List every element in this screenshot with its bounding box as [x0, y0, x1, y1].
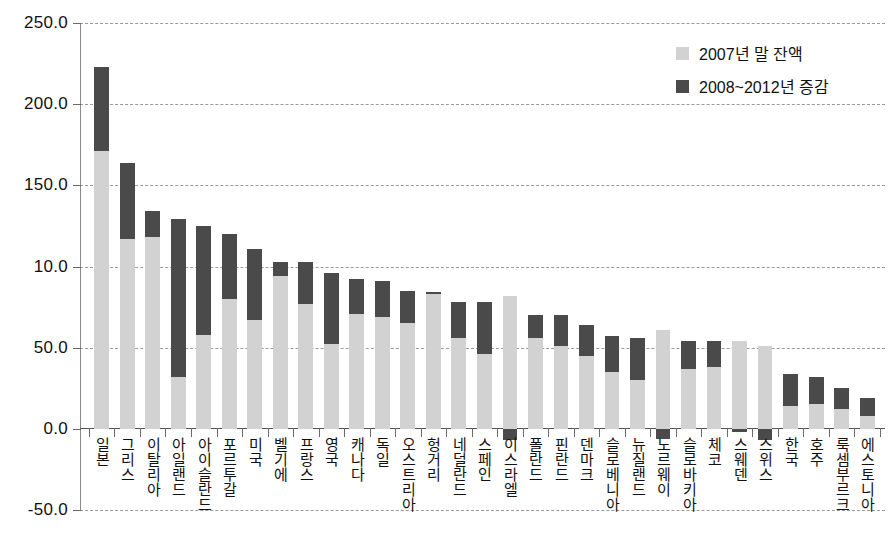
x-axis-category-label: 핀란드 — [553, 437, 568, 482]
x-axis-category-label: 헝거리 — [426, 437, 441, 482]
x-axis-category-label: 에스토니아 — [860, 437, 875, 512]
x-axis-category-label: 캐나다 — [349, 437, 364, 482]
x-tick-mark — [880, 428, 881, 437]
bar-segment-base — [681, 369, 696, 429]
bar-segment-delta — [834, 388, 849, 409]
x-axis-category-label: 벨기에 — [273, 437, 288, 482]
bar-segment-delta — [247, 249, 262, 320]
bar-segment-base — [324, 344, 339, 428]
y-tick-mark — [73, 23, 81, 24]
x-axis-category-label: 영국 — [324, 437, 339, 467]
x-axis-category-label: 그리스 — [120, 437, 135, 482]
x-axis-category-label: 호주 — [809, 437, 824, 467]
bar-segment-base — [349, 314, 364, 429]
x-axis-category-label: 폴란드 — [528, 437, 543, 482]
bar-segment-delta — [707, 341, 722, 367]
bar-segment-delta — [94, 67, 109, 151]
x-tick-mark — [242, 428, 243, 437]
x-axis-category-label: 체코 — [707, 437, 722, 467]
x-tick-mark — [854, 428, 855, 437]
x-tick-mark — [701, 428, 702, 437]
x-tick-mark — [165, 428, 166, 437]
x-tick-mark — [140, 428, 141, 437]
x-tick-mark — [191, 428, 192, 437]
legend-item[interactable]: 2008~2012년 증감 — [676, 74, 829, 98]
x-axis-category-label: 노르웨이 — [656, 437, 671, 497]
y-axis-tick-label: 150.0 — [24, 175, 68, 195]
bar-segment-base — [273, 276, 288, 429]
bar-segment-base — [298, 304, 313, 429]
bar-segment-delta — [324, 273, 339, 344]
legend-label: 2008~2012년 증감 — [699, 74, 829, 98]
x-axis-category-label: 독일 — [375, 437, 390, 467]
bar-segment-base — [630, 380, 645, 429]
x-tick-mark — [421, 428, 422, 437]
x-tick-mark — [752, 428, 753, 437]
bar-segment-base — [94, 151, 109, 429]
bar-segment-base — [656, 330, 671, 429]
bar-segment-base — [605, 372, 620, 429]
x-tick-mark — [625, 428, 626, 437]
x-axis-category-label: 오스트리아 — [400, 437, 415, 512]
bar-segment-base — [451, 338, 466, 429]
bar-segment-delta — [554, 315, 569, 346]
bar-segment-base — [120, 239, 135, 429]
bar-segment-base — [477, 354, 492, 429]
bar-segment-base — [758, 346, 773, 429]
x-tick-mark — [370, 428, 371, 437]
bar-segment-base — [860, 416, 875, 429]
bar-segment-delta — [426, 292, 441, 294]
legend-swatch-delta — [676, 80, 689, 93]
bar-segment-base — [834, 409, 849, 428]
bar-segment-base — [400, 323, 415, 429]
bar-segment-delta — [860, 398, 875, 416]
bar-segment-base — [196, 335, 211, 429]
bar-segment-base — [503, 296, 518, 429]
bar-segment-delta — [732, 429, 747, 432]
legend-label: 2007년 말 잔액 — [699, 41, 803, 65]
bar-segment-delta — [273, 262, 288, 277]
bar-segment-base — [145, 237, 160, 429]
y-axis-tick-label: 0.0 — [43, 419, 68, 439]
y-tick-mark — [73, 104, 81, 105]
bar-segment-delta — [477, 302, 492, 354]
bar-segment-delta — [145, 211, 160, 237]
bar-segment-base — [809, 404, 824, 428]
x-axis-category-label: 슬로베니아 — [604, 437, 619, 512]
x-tick-mark — [446, 428, 447, 437]
chart-legend: 2007년 말 잔액2008~2012년 증감 — [676, 41, 829, 98]
bar-segment-delta — [375, 281, 390, 317]
bar-segment-base — [426, 294, 441, 429]
x-axis-category-label: 슬로바키아 — [681, 437, 696, 512]
x-axis-category-label: 네덜란드 — [451, 437, 466, 497]
bar-segment-delta — [605, 336, 620, 372]
x-tick-mark — [599, 428, 600, 437]
stacked-bar-chart: 일본그리스이탈리아아일랜드아이슬란드포르투갈미국벨기에프랑스영국캐나다독일오스트… — [0, 0, 892, 542]
bar-segment-delta — [222, 234, 237, 299]
x-tick-mark — [523, 428, 524, 437]
bar-segment-delta — [630, 338, 645, 380]
x-tick-mark — [803, 428, 804, 437]
x-tick-mark — [548, 428, 549, 437]
bar-segment-base — [554, 346, 569, 429]
x-axis-category-label: 포르투갈 — [222, 437, 237, 497]
x-tick-mark — [650, 428, 651, 437]
x-axis-category-label: 스위스 — [758, 437, 773, 482]
legend-item[interactable]: 2007년 말 잔액 — [676, 41, 829, 65]
x-tick-mark — [676, 428, 677, 437]
x-axis-category-label: 스웨덴 — [732, 437, 747, 482]
x-tick-mark — [217, 428, 218, 437]
x-tick-mark — [778, 428, 779, 437]
bar-segment-delta — [451, 302, 466, 338]
y-tick-mark — [73, 429, 81, 430]
legend-swatch-base — [676, 47, 689, 60]
bar-segment-delta — [120, 163, 135, 239]
x-axis-category-label: 이탈리아 — [145, 437, 160, 497]
y-axis-tick-label: -50.0 — [28, 500, 68, 520]
bar-segment-base — [707, 367, 722, 429]
x-axis-category-label: 뉴질랜드 — [630, 437, 645, 497]
bar-segment-delta — [681, 341, 696, 369]
bar-segment-delta — [400, 291, 415, 323]
x-axis-category-label: 아일랜드 — [171, 437, 186, 497]
bar-segment-delta — [528, 315, 543, 338]
